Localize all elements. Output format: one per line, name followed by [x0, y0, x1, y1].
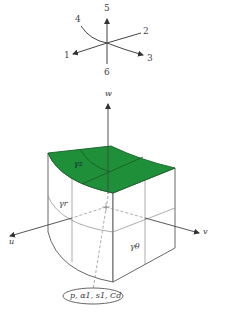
orient-label-4: 4: [75, 15, 81, 24]
face-label-right: γθ: [130, 243, 140, 251]
face-label-left: γr: [59, 200, 68, 208]
diagram-canvas: [0, 0, 225, 313]
v-axis-label: v: [203, 228, 208, 236]
orient-label-1: 1: [64, 51, 70, 60]
orient-label-5: 5: [104, 4, 110, 13]
u-axis-label: u: [9, 238, 14, 246]
orient-label-6: 6: [104, 68, 110, 77]
face-label-top: γz: [74, 160, 83, 168]
orient-label-2: 2: [143, 27, 149, 36]
w-axis-label: w: [105, 90, 112, 98]
orient-label-3: 3: [147, 54, 153, 63]
parameters-label: p, α1, s1, Cd: [70, 292, 121, 300]
orientation-key: [73, 19, 143, 64]
